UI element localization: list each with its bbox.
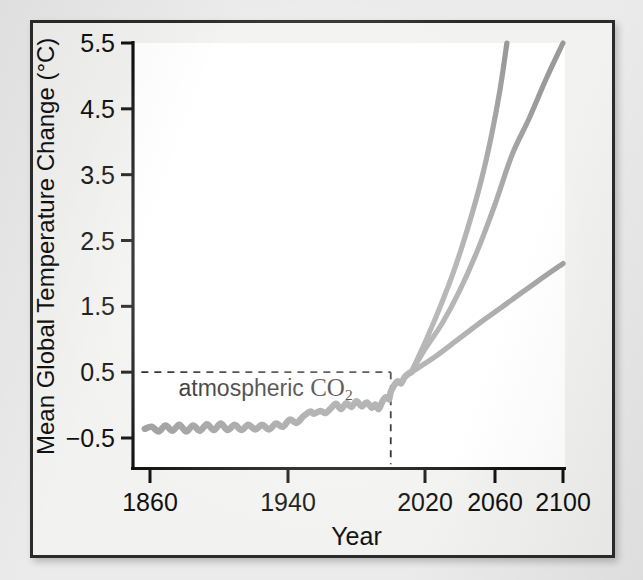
annotation-formula-subscript: 2 bbox=[345, 386, 353, 403]
annotation-formula: CO2 bbox=[310, 374, 352, 401]
x-tick-label: 2100 bbox=[535, 490, 591, 515]
annotation-prefix: atmospheric bbox=[179, 375, 311, 401]
x-tick-label: 1940 bbox=[260, 490, 316, 515]
chart-page: 5.54.53.52.51.50.5−0.5 18601940202020602… bbox=[0, 0, 643, 580]
annotation-formula-base: CO bbox=[310, 374, 345, 401]
x-tick-label: 1860 bbox=[122, 490, 178, 515]
y-axis-title: Mean Global Temperature Change (°C) bbox=[32, 38, 60, 455]
atmospheric-co2-annotation: atmospheric CO2 bbox=[179, 374, 353, 404]
x-axis-ticks bbox=[150, 468, 563, 483]
x-axis-title: Year bbox=[331, 522, 382, 551]
y-axis-ticks bbox=[121, 43, 133, 438]
x-tick-label: 2060 bbox=[467, 490, 523, 515]
x-tick-label: 2020 bbox=[397, 490, 453, 515]
